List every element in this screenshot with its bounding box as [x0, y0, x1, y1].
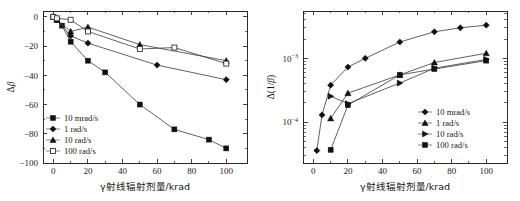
x-tick-label: 80 — [187, 166, 197, 176]
legend-label: 10 mrad/s — [64, 113, 99, 123]
data-point — [137, 47, 142, 52]
y-axis-label: Δβ — [6, 81, 16, 92]
legend-marker — [51, 116, 56, 121]
x-tick-label: 60 — [153, 166, 163, 176]
y-tick-label: −100 — [19, 158, 38, 168]
x-axis-label: γ射线辐射剂量/krad — [100, 181, 190, 192]
legend-label: 1 rad/s — [436, 118, 460, 128]
y-tick-label: −60 — [24, 100, 39, 110]
legend-item: 10 mrad/s — [418, 107, 471, 117]
data-point — [85, 29, 90, 34]
data-point — [54, 16, 59, 21]
y-tick-label: −20 — [24, 41, 39, 51]
data-point — [206, 137, 211, 142]
legend-item: 10 rad/s — [418, 129, 464, 139]
y-tick-label: 0 — [34, 12, 39, 22]
data-point — [68, 17, 73, 22]
chart-left: 0204060801000−20−40−60−80−100γ射线辐射剂量/kra… — [0, 0, 260, 201]
legend-label: 10 mrad/s — [436, 107, 471, 117]
data-point — [319, 112, 325, 118]
legend-label: 10 rad/s — [64, 135, 92, 145]
data-point — [314, 147, 320, 153]
legend-item: 100 rad/s — [418, 140, 468, 150]
data-point — [224, 61, 229, 66]
data-point — [457, 25, 463, 31]
data-point — [432, 67, 437, 72]
data-point — [172, 127, 177, 132]
legend-marker — [422, 131, 428, 137]
y-axis-label: Δ(1/β) — [266, 75, 277, 100]
data-point — [345, 103, 350, 108]
data-point — [68, 39, 73, 44]
data-point — [397, 72, 402, 77]
data-point — [328, 93, 334, 99]
chart-panel-right: 02040608010010−310−4γ射线辐射剂量/kradΔ(1/β)10… — [260, 0, 520, 201]
x-tick-label: 40 — [118, 166, 128, 176]
y-tick-label: 10−3 — [282, 52, 298, 63]
y-tick-label: −40 — [24, 71, 39, 81]
data-point — [397, 39, 403, 45]
x-tick-label: 100 — [480, 166, 494, 176]
legend: 10 mrad/s1 rad/s10 rad/s100 rad/s — [418, 107, 471, 150]
data-point — [328, 115, 334, 121]
figure-container: 0204060801000−20−40−60−80−100γ射线辐射剂量/kra… — [0, 0, 520, 201]
y-axis: 10−310−4 — [282, 14, 507, 156]
legend-label: 100 rad/s — [64, 146, 96, 156]
x-tick-label: 0 — [311, 166, 316, 176]
series-4 — [51, 14, 229, 66]
series-line — [53, 17, 226, 61]
data-point — [397, 80, 403, 86]
series-4 — [328, 58, 489, 152]
data-point — [223, 77, 229, 83]
data-point — [484, 58, 489, 63]
legend-item: 10 rad/s — [46, 135, 92, 145]
legend-item: 100 rad/s — [46, 146, 96, 156]
legend-label: 100 rad/s — [436, 140, 468, 150]
legend-marker — [422, 109, 428, 115]
legend: 10 mrad/s1 rad/s10 rad/s100 rad/s — [46, 113, 99, 156]
data-point — [328, 147, 333, 152]
data-point — [483, 22, 489, 28]
legend-label: 1 rad/s — [64, 124, 88, 134]
legend-item: 10 mrad/s — [46, 113, 99, 123]
x-tick-label: 60 — [413, 166, 423, 176]
data-point — [483, 50, 489, 56]
x-tick-label: 20 — [343, 166, 353, 176]
legend-marker — [51, 149, 56, 154]
legend-item: 1 rad/s — [46, 124, 88, 134]
data-point — [172, 45, 177, 50]
x-tick-label: 20 — [83, 166, 93, 176]
data-point — [345, 90, 351, 96]
y-axis: 0−20−40−60−80−100 — [19, 12, 247, 168]
data-point — [224, 146, 229, 151]
data-point — [85, 58, 90, 63]
data-point — [85, 40, 91, 46]
legend-label: 10 rad/s — [436, 129, 464, 139]
data-point — [103, 70, 108, 75]
x-tick-label: 100 — [220, 166, 234, 176]
x-tick-label: 80 — [447, 166, 457, 176]
x-axis-label: γ射线辐射剂量/krad — [360, 181, 450, 192]
data-point — [154, 62, 160, 68]
chart-panel-left: 0204060801000−20−40−60−80−100γ射线辐射剂量/kra… — [0, 0, 260, 201]
x-tick-label: 40 — [378, 166, 388, 176]
y-tick-label: −80 — [24, 129, 39, 139]
legend-marker — [50, 126, 56, 132]
data-point — [431, 29, 437, 35]
plot-frame — [303, 11, 507, 163]
series-line — [331, 59, 487, 103]
data-point — [362, 55, 368, 61]
series-line — [53, 17, 226, 64]
chart-right: 02040608010010−310−4γ射线辐射剂量/kradΔ(1/β)10… — [260, 0, 520, 201]
legend-item: 1 rad/s — [418, 118, 460, 128]
x-tick-label: 0 — [51, 166, 56, 176]
y-tick-label: 10−4 — [282, 116, 298, 127]
legend-marker — [423, 143, 428, 148]
data-point — [137, 102, 142, 107]
x-axis: 020406080100 — [311, 11, 493, 176]
